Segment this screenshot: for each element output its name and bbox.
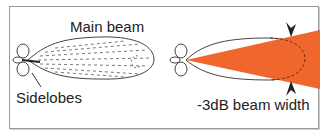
main-beam-label: Main beam <box>70 19 144 34</box>
beam-width-label: -3dB beam width <box>197 97 310 112</box>
radiation-pattern-diagram <box>0 0 325 134</box>
sidelobes-label: Sidelobes <box>16 90 82 105</box>
sidelobes-pointer <box>32 73 41 87</box>
beam-width-arrow-top-icon <box>286 22 296 37</box>
main-lobe-hatched-icon <box>22 37 154 79</box>
right-sidelobes-icon <box>170 44 187 76</box>
